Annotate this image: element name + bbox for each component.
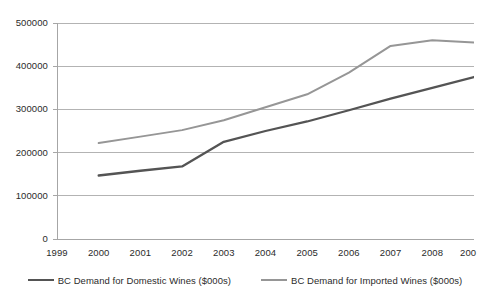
- legend-label-imported: BC Demand for Imported Wines ($000s): [291, 275, 462, 286]
- x-axis-tick-label: 2003: [202, 247, 246, 258]
- line-chart: 0100000200000300000400000500000 19992000…: [0, 0, 490, 297]
- x-axis-tick-label: 2002: [160, 247, 204, 258]
- legend-label-domestic: BC Demand for Domestic Wines ($000s): [58, 275, 231, 286]
- y-axis-tick-label: 200000: [0, 147, 48, 158]
- plot-area: [0, 0, 490, 265]
- x-axis-tick-label: 2005: [285, 247, 329, 258]
- data-series-group: [99, 40, 474, 175]
- y-axis-tick-label: 300000: [0, 103, 48, 114]
- y-axis-tick-label: 100000: [0, 190, 48, 201]
- x-axis-tick-label: 2006: [327, 247, 371, 258]
- legend-swatch-imported: [261, 279, 287, 281]
- x-axis-tick-label: 2001: [118, 247, 162, 258]
- x-axis-tick-label: 2007: [369, 247, 413, 258]
- x-axis-tick-label: 2000: [77, 247, 121, 258]
- y-axis-tick-label: 0: [0, 233, 48, 244]
- series-line-domestic: [99, 77, 474, 175]
- y-axis-ticks: [53, 23, 57, 239]
- x-axis-tick-label: 2004: [244, 247, 288, 258]
- legend-swatch-domestic: [28, 279, 54, 281]
- chart-legend: BC Demand for Domestic Wines ($000s) BC …: [0, 268, 490, 292]
- x-axis-tick-label: 1999: [35, 247, 79, 258]
- x-axis-tick-label: 2008: [410, 247, 454, 258]
- legend-item-imported[interactable]: BC Demand for Imported Wines ($000s): [261, 275, 462, 286]
- y-axis-tick-label: 500000: [0, 17, 48, 28]
- y-axis-tick-label: 400000: [0, 60, 48, 71]
- legend-item-domestic[interactable]: BC Demand for Domestic Wines ($000s): [28, 275, 231, 286]
- x-axis-tick-label: 200: [452, 247, 490, 258]
